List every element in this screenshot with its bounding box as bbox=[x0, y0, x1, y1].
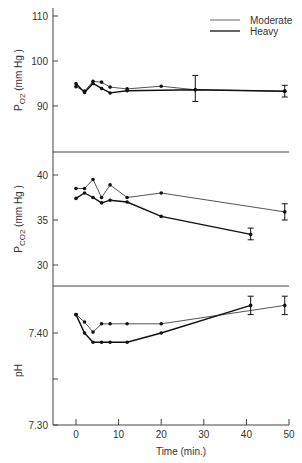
data-point-heavy bbox=[83, 191, 87, 195]
data-point-heavy bbox=[108, 198, 112, 202]
y-tick-label: 100 bbox=[31, 56, 48, 67]
y-tick-label: 40 bbox=[37, 170, 49, 181]
y-axis-title-pco2: PCO2 (mm Hg ) bbox=[13, 185, 27, 253]
y-tick-label: 90 bbox=[37, 101, 49, 112]
data-point-moderate bbox=[159, 84, 163, 88]
x-tick-label: 10 bbox=[113, 429, 125, 440]
legend: Moderate Heavy bbox=[210, 15, 293, 37]
data-point-moderate bbox=[91, 330, 95, 334]
data-point-moderate bbox=[125, 196, 129, 200]
x-tick-label: 20 bbox=[156, 429, 168, 440]
data-point-moderate bbox=[100, 196, 104, 200]
data-point-moderate bbox=[159, 191, 163, 195]
y-tick-label: 7.40 bbox=[29, 328, 49, 339]
x-axis-title: Time (min.) bbox=[156, 446, 206, 457]
data-point-moderate bbox=[159, 322, 163, 326]
legend-label-heavy: Heavy bbox=[250, 26, 278, 37]
data-point-moderate bbox=[83, 187, 87, 191]
data-point-heavy bbox=[74, 82, 78, 86]
data-point-heavy bbox=[100, 87, 104, 91]
data-point-moderate bbox=[108, 85, 112, 89]
data-point-heavy bbox=[83, 331, 87, 335]
y-tick-label: 30 bbox=[37, 260, 49, 271]
x-tick-label: 30 bbox=[198, 429, 210, 440]
y-axis-title-po2: PO2 (mm Hg ) bbox=[13, 49, 27, 111]
y-tick-label: 7.30 bbox=[29, 420, 49, 431]
series-line-heavy bbox=[76, 193, 251, 234]
data-point-moderate bbox=[100, 322, 104, 326]
data-point-heavy bbox=[100, 201, 104, 205]
y-axis-title-ph: pH bbox=[13, 364, 24, 377]
legend-label-moderate: Moderate bbox=[250, 15, 293, 26]
x-tick-label: 40 bbox=[241, 429, 253, 440]
series-line-moderate bbox=[76, 305, 285, 332]
data-point-heavy bbox=[159, 215, 163, 219]
data-point-moderate bbox=[125, 322, 129, 326]
data-point-heavy bbox=[74, 313, 78, 317]
data-point-heavy bbox=[91, 196, 95, 200]
data-point-heavy bbox=[108, 340, 112, 344]
data-point-heavy bbox=[108, 91, 112, 95]
data-point-heavy bbox=[91, 82, 95, 86]
data-point-moderate bbox=[108, 322, 112, 326]
data-point-heavy bbox=[125, 89, 129, 93]
data-point-heavy bbox=[74, 197, 78, 201]
axes-layer: 90100110PO2 (mm Hg )303540PCO2 (mm Hg )7… bbox=[13, 8, 295, 440]
series-line-moderate bbox=[76, 180, 285, 212]
data-point-heavy bbox=[159, 331, 163, 335]
data-point-moderate bbox=[108, 183, 112, 187]
data-point-moderate bbox=[91, 178, 95, 182]
data-point-moderate bbox=[100, 80, 104, 84]
data-point-heavy bbox=[100, 340, 104, 344]
y-tick-label: 110 bbox=[32, 11, 48, 22]
data-point-heavy bbox=[125, 200, 129, 204]
x-tick-label: 0 bbox=[73, 429, 79, 440]
data-point-heavy bbox=[83, 91, 87, 95]
data-point-moderate bbox=[83, 320, 87, 324]
data-point-heavy bbox=[91, 340, 95, 344]
plots-layer bbox=[74, 75, 288, 344]
data-point-heavy bbox=[125, 340, 129, 344]
x-tick-label: 50 bbox=[283, 429, 295, 440]
y-tick-label: 35 bbox=[37, 215, 49, 226]
chart-figure: 90100110PO2 (mm Hg )303540PCO2 (mm Hg )7… bbox=[0, 0, 302, 463]
data-point-moderate bbox=[74, 187, 78, 191]
